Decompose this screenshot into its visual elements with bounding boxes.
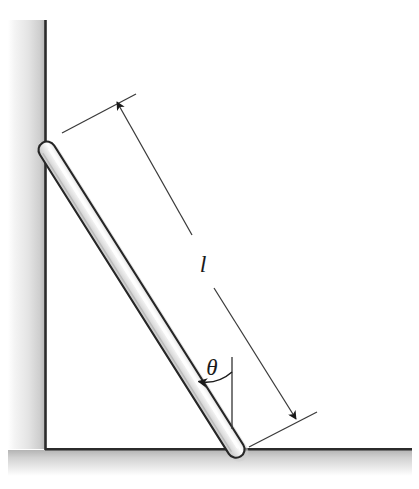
dimension-tick-bottom: [249, 412, 317, 447]
rod-group: [35, 138, 248, 461]
dimension-line-lower: [214, 288, 296, 419]
length-dimension-group: l: [62, 94, 317, 447]
rod-highlight-stripe: [50, 149, 238, 447]
physics-diagram-figure: l θ: [0, 0, 419, 489]
rod-body-group: [35, 138, 248, 461]
floor-shading: [8, 450, 412, 476]
wall-shading: [8, 20, 45, 449]
length-label: l: [200, 251, 207, 277]
floor-group: [8, 449, 412, 476]
dimension-line-upper: [117, 102, 192, 235]
diagram-canvas: l θ: [0, 0, 419, 489]
wall-group: [8, 20, 46, 450]
angle-label: θ: [206, 355, 217, 380]
dimension-tick-top: [62, 94, 136, 133]
rod-shading-stripe: [43, 154, 231, 452]
